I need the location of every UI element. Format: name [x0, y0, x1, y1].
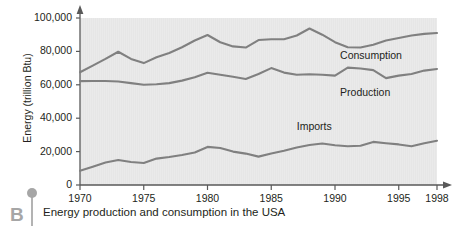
y-tick-label: 100,000 — [0, 11, 72, 23]
series-label-imports: Imports — [297, 120, 332, 132]
y-tick-label: 60,000 — [0, 78, 72, 90]
panel-letter: B — [10, 205, 24, 224]
series-label-production: Production — [340, 86, 390, 98]
figure-panel: Energy (trillion Btu) 020,00040,00060,00… — [0, 0, 457, 232]
y-tick-label: 40,000 — [0, 111, 72, 123]
y-tick-label: 0 — [0, 178, 72, 190]
pin-dot-icon — [27, 188, 37, 198]
figure-caption: Energy production and consumption in the… — [43, 206, 285, 218]
series-label-consumption: Consumption — [340, 49, 402, 61]
figure-caption-row: B Energy production and consumption in t… — [0, 196, 457, 232]
y-tick-label: 80,000 — [0, 44, 72, 56]
y-tick-label: 20,000 — [0, 145, 72, 157]
line-chart — [0, 0, 457, 200]
